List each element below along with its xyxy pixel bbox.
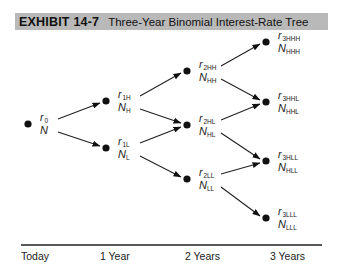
node-dot <box>262 157 269 164</box>
node-3LLL: r3LLLNLLL <box>262 205 297 231</box>
node-2HL: r2HLNHL <box>183 112 215 138</box>
edge-1H-2HL <box>140 109 181 123</box>
node-3HHL: r3HHLNHHL <box>262 89 299 115</box>
edge-2HH-3HHH <box>221 44 260 66</box>
node-0: r0N <box>24 111 48 136</box>
edge-1L-2HL <box>140 127 181 143</box>
node-value-label: NHHL <box>278 102 299 115</box>
node-1L: r1LNL <box>102 135 130 161</box>
node-rate-label: r2LL <box>199 166 215 179</box>
tree-nodes: r0Nr1HNHr1LNLr2HHNHHr2HLNHLr2LLNLLr3HHHN… <box>24 29 300 231</box>
node-value-label: NHHH <box>278 42 300 55</box>
edge-2HL-3HHL <box>221 104 260 120</box>
node-rate-label: r2HL <box>199 112 216 125</box>
edge-2LL-3HLL <box>221 163 260 174</box>
node-dot <box>102 144 109 151</box>
period-label-today: Today <box>21 250 49 262</box>
node-value-label: NH <box>118 101 131 114</box>
node-rate-label: r0 <box>40 111 49 124</box>
node-2LL: r2LLNLL <box>183 166 214 192</box>
node-value-label: NLLL <box>278 218 297 231</box>
edge-2LL-3LLL <box>221 187 260 216</box>
node-2HH: r2HHNHH <box>183 58 216 84</box>
period-label-3-years: 3 Years <box>270 250 305 262</box>
node-value-label: NLL <box>199 179 215 192</box>
node-value-label: NHH <box>199 71 217 84</box>
node-dot <box>262 98 269 105</box>
edge-0-1H <box>58 103 100 119</box>
binomial-tree: r0Nr1HNHr1LNLr2HHNHHr2HLNHLr2LLNLLr3HHHN… <box>0 0 340 274</box>
node-rate-label: r1L <box>118 135 130 148</box>
node-dot <box>262 38 269 45</box>
node-dot <box>102 97 109 104</box>
node-value-label: NL <box>118 148 130 161</box>
node-3HLL: r3HLLNHLL <box>262 148 298 174</box>
edge-1H-2HH <box>140 73 181 96</box>
node-value-label: NHL <box>199 125 216 138</box>
node-dot <box>262 214 269 221</box>
edge-2HH-3HHL <box>221 79 260 100</box>
tree-edges <box>58 44 260 216</box>
edge-1L-2LL <box>140 156 181 177</box>
node-dot <box>24 120 31 127</box>
edge-2HL-3HLL <box>221 133 260 159</box>
edge-0-1L <box>58 132 100 146</box>
node-dot <box>183 121 190 128</box>
node-rate-label: r3HHH <box>278 29 301 42</box>
node-1H: r1HNH <box>102 88 131 114</box>
node-rate-label: r2HH <box>199 58 217 71</box>
node-dot <box>183 175 190 182</box>
node-rate-label: r3LLL <box>278 205 297 218</box>
node-rate-label: r1H <box>118 88 131 101</box>
node-dot <box>183 67 190 74</box>
node-value-label: NHLL <box>278 161 298 174</box>
node-value-label: N <box>40 124 48 136</box>
period-label-1-year: 1 Year <box>100 250 130 262</box>
node-rate-label: r3HLL <box>278 148 298 161</box>
node-rate-label: r3HHL <box>278 89 300 102</box>
period-label-2-years: 2 Years <box>185 250 220 262</box>
node-3HHH: r3HHHNHHH <box>262 29 300 55</box>
